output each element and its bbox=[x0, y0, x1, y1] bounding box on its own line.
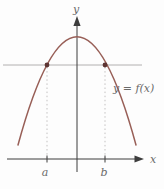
y-axis-label: y bbox=[72, 3, 80, 16]
curve-label: y = f(x) bbox=[112, 82, 154, 95]
parabola-figure: y x y = f(x) a b bbox=[0, 0, 164, 189]
point-a-label: a bbox=[42, 166, 49, 179]
x-axis-label: x bbox=[150, 153, 157, 166]
point-b-label: b bbox=[100, 166, 107, 179]
figure-canvas: y x y = f(x) a b bbox=[0, 0, 164, 189]
intersection-point-b bbox=[103, 63, 108, 68]
y-axis-arrow-icon bbox=[73, 16, 80, 26]
x-axis-arrow-icon bbox=[135, 155, 145, 162]
intersection-point-a bbox=[45, 63, 50, 68]
